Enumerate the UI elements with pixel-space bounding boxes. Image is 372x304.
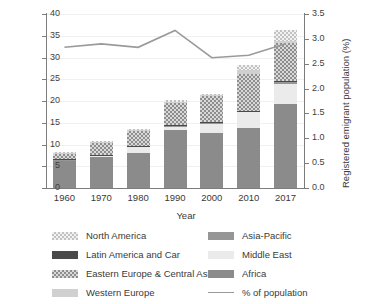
y-axis-right-tick xyxy=(305,14,309,15)
y-axis-left-tick-label: 40 xyxy=(30,9,60,18)
chart-figure: 0510152025303540 0.00.51.01.52.02.53.03.… xyxy=(0,0,372,304)
y-axis-right-tick-label: 2.5 xyxy=(312,59,342,68)
y-axis-right-tick xyxy=(305,113,309,114)
y-axis-right-tick xyxy=(305,138,309,139)
y-axis-right-tick-label: 1.5 xyxy=(312,108,342,117)
legend-column-right: Asia-PacificMiddle EastAfrica% of popula… xyxy=(208,226,358,302)
legend-item-asia-pacific[interactable]: Asia-Pacific xyxy=(208,226,358,245)
legend-swatch-latin-america xyxy=(52,251,78,259)
legend-label-latin-america: Latin America and Car xyxy=(86,249,180,260)
y-axis-left-tick-label: 0 xyxy=(30,183,60,192)
percent-of-population-line xyxy=(46,14,304,188)
legend-item-pct-line[interactable]: % of population xyxy=(208,283,358,302)
y-axis-right-tick-label: 0.0 xyxy=(312,183,342,192)
legend-swatch-africa xyxy=(208,270,234,278)
x-axis-title: Year xyxy=(0,210,372,221)
legend-swatch-asia-pacific xyxy=(208,232,234,240)
y-axis-left-tick-label: 10 xyxy=(30,140,60,149)
legend-swatch-western-europe xyxy=(52,289,78,297)
legend-swatch-eastern-europe xyxy=(52,270,78,278)
y-axis-right-tick-label: 3.5 xyxy=(312,9,342,18)
x-axis-tick-label-2010: 2010 xyxy=(229,192,269,203)
y-axis-left-tick-label: 25 xyxy=(30,74,60,83)
plot-area: 0510152025303540 0.00.51.01.52.02.53.03.… xyxy=(0,0,372,222)
legend-item-western-europe[interactable]: Western Europe xyxy=(52,283,202,302)
legend-swatch-pct-line xyxy=(208,289,234,297)
legend-column-left: North AmericaLatin America and CarEaster… xyxy=(52,226,202,302)
legend-item-eastern-europe[interactable]: Eastern Europe & Central Asia xyxy=(52,264,202,283)
legend-label-eastern-europe: Eastern Europe & Central Asia xyxy=(86,268,215,279)
y-axis-right-tick xyxy=(305,163,309,164)
y-axis-right-tick-label: 1.0 xyxy=(312,133,342,142)
y-axis-right-tick xyxy=(305,39,309,40)
legend-label-north-america: North America xyxy=(86,230,146,241)
legend-swatch-north-america xyxy=(52,232,78,240)
legend-item-north-america[interactable]: North America xyxy=(52,226,202,245)
y-axis-left-tick-label: 35 xyxy=(30,31,60,40)
y-axis-right-tick xyxy=(305,188,309,189)
x-axis-tick-label-2017: 2017 xyxy=(266,192,306,203)
legend-label-middle-east: Middle East xyxy=(242,249,292,260)
x-axis-line xyxy=(46,188,305,189)
legend-label-western-europe: Western Europe xyxy=(86,287,154,298)
y-axis-right-tick xyxy=(305,64,309,65)
y-axis-left-tick-label: 15 xyxy=(30,118,60,127)
x-axis-tick-label-1960: 1960 xyxy=(44,192,84,203)
legend-item-latin-america[interactable]: Latin America and Car xyxy=(52,245,202,264)
legend-label-africa: Africa xyxy=(242,268,266,279)
legend-label-pct-line: % of population xyxy=(242,287,308,298)
legend-item-africa[interactable]: Africa xyxy=(208,264,358,283)
y-axis-left-tick-label: 30 xyxy=(30,53,60,62)
x-axis-tick-label-1980: 1980 xyxy=(118,192,158,203)
x-axis-tick-label-1990: 1990 xyxy=(155,192,195,203)
legend-label-asia-pacific: Asia-Pacific xyxy=(242,230,292,241)
y-axis-right-tick-label: 2.0 xyxy=(312,84,342,93)
y-axis-right-tick xyxy=(305,89,309,90)
chart-legend: North AmericaLatin America and CarEaster… xyxy=(0,226,372,304)
x-axis-tick-label-1970: 1970 xyxy=(81,192,121,203)
y-axis-left-tick-label: 20 xyxy=(30,96,60,105)
legend-swatch-middle-east xyxy=(208,251,234,259)
y-axis-left-tick-label: 5 xyxy=(30,161,60,170)
legend-item-middle-east[interactable]: Middle East xyxy=(208,245,358,264)
y-axis-right-title: Registered emigrant population (%) xyxy=(340,39,351,188)
y-axis-right-tick-label: 3.0 xyxy=(312,34,342,43)
y-axis-right-tick-label: 0.5 xyxy=(312,158,342,167)
x-axis-tick-label-2000: 2000 xyxy=(192,192,232,203)
